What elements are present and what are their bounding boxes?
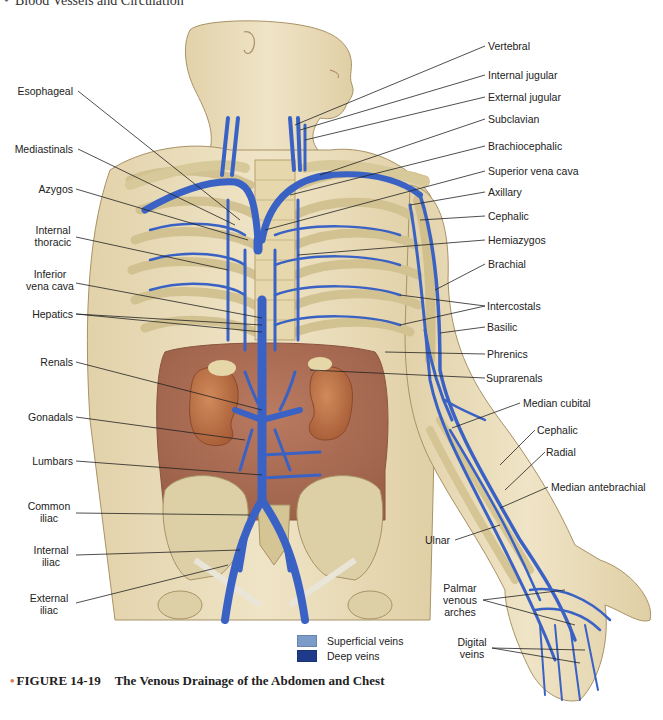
right-arm xyxy=(405,185,651,701)
label-axillary: Axillary xyxy=(488,186,522,198)
label-inferior-vena-cava: Inferiorvena cava xyxy=(22,268,78,292)
label-mediastinals: Mediastinals xyxy=(15,143,73,155)
deep-veins-swatch xyxy=(297,650,317,662)
label-subclavian: Subclavian xyxy=(488,113,539,125)
left-adrenal xyxy=(208,360,236,376)
label-esophageal: Esophageal xyxy=(18,85,73,97)
label-internal-thoracic: Internalthoracic xyxy=(28,224,78,248)
label-hemiazygos: Hemiazygos xyxy=(488,234,546,246)
label-hepatics: Hepatics xyxy=(32,308,73,320)
label-ulnar: Ulnar xyxy=(425,534,450,546)
figure-caption: •FIGURE 14-19The Venous Drainage of the … xyxy=(10,673,385,689)
label-cephalic-upper: Cephalic xyxy=(488,210,529,222)
figure-title: The Venous Drainage of the Abdomen and C… xyxy=(115,673,385,688)
label-digital-veins: Digitalveins xyxy=(452,636,492,660)
label-suprarenals: Suprarenals xyxy=(486,372,543,384)
label-cephalic-lower: Cephalic xyxy=(537,424,578,436)
label-internal-iliac: Internaliliac xyxy=(26,544,76,568)
figure-number: FIGURE 14-19 xyxy=(17,673,101,688)
right-adrenal xyxy=(308,357,332,371)
label-internal-jugular: Internal jugular xyxy=(488,69,557,81)
legend-item-superficial: Superficial veins xyxy=(297,633,403,648)
superficial-veins-swatch xyxy=(297,635,317,647)
label-vertebral: Vertebral xyxy=(488,40,530,52)
label-renals: Renals xyxy=(40,356,73,368)
label-palmar-venous-arches: Palmarvenousarches xyxy=(438,582,482,618)
label-common-iliac: Commoniliac xyxy=(24,500,74,524)
label-external-jugular: External jugular xyxy=(488,91,561,103)
label-brachial: Brachial xyxy=(488,258,526,270)
caption-bullet-icon: • xyxy=(10,673,15,688)
label-azygos: Azygos xyxy=(39,183,73,195)
label-superior-vena-cava: Superior vena cava xyxy=(488,165,578,177)
label-lumbars: Lumbars xyxy=(32,455,73,467)
venous-anatomy-illustration xyxy=(0,0,663,720)
label-basilic: Basilic xyxy=(487,321,517,333)
label-gonadals: Gonadals xyxy=(28,411,73,423)
legend-item-deep: Deep veins xyxy=(297,648,403,663)
label-brachiocephalic: Brachiocephalic xyxy=(488,140,562,152)
label-median-antebrachial: Median antebrachial xyxy=(551,481,646,493)
label-external-iliac: Externaliliac xyxy=(24,592,74,616)
label-intercostals: Intercostals xyxy=(487,300,541,312)
right-kidney xyxy=(309,367,352,440)
label-radial: Radial xyxy=(546,446,576,458)
legend: Superficial veins Deep veins xyxy=(297,633,403,663)
label-median-cubital: Median cubital xyxy=(523,397,591,409)
head-and-neck xyxy=(185,21,353,160)
label-phrenics: Phrenics xyxy=(487,348,528,360)
